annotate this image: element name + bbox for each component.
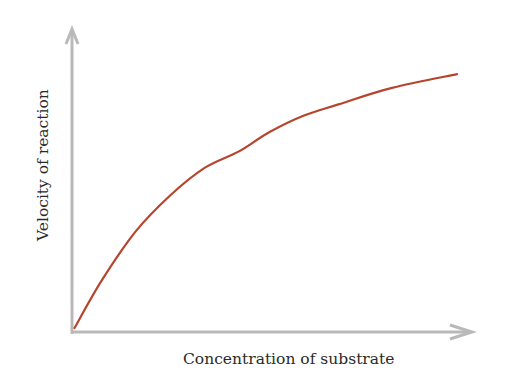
x-axis-label: Concentration of substrate <box>183 350 394 368</box>
chart: Concentration of substrate Velocity of r… <box>0 0 512 376</box>
y-axis-label: Velocity of reaction <box>34 89 52 242</box>
velocity-curve <box>75 74 458 328</box>
axes <box>66 29 472 339</box>
